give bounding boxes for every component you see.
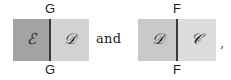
script-capital-e-symbol: ℰ	[27, 32, 36, 47]
left-figure-divider-G	[49, 19, 51, 61]
script-capital-c-symbol: 𝒞	[191, 32, 202, 47]
trailing-comma: ,	[220, 36, 224, 49]
script-capital-d-symbol: 𝒟	[152, 32, 164, 47]
left-figure-panel-D: 𝒟	[50, 19, 89, 61]
script-capital-d-symbol: 𝒟	[64, 32, 76, 47]
left-figure-panel-E: ℰ	[13, 19, 50, 61]
right-figure-top-label: F	[167, 2, 187, 15]
conjunction-text: and	[96, 32, 121, 45]
left-figure-box: ℰ 𝒟	[13, 19, 89, 61]
right-figure-divider-F	[176, 19, 178, 61]
right-figure-panel-C: 𝒞	[177, 19, 216, 61]
right-figure-group: F 𝒟 𝒞 F	[138, 0, 216, 80]
left-figure-top-label: G	[40, 2, 60, 15]
left-figure-group: G ℰ 𝒟 G	[13, 0, 89, 80]
right-figure-panel-D: 𝒟	[138, 19, 177, 61]
math-figure-canvas: G ℰ 𝒟 G and F 𝒟 𝒞 F ,	[0, 0, 231, 80]
left-figure-bottom-label: G	[40, 63, 60, 76]
right-figure-bottom-label: F	[167, 63, 187, 76]
